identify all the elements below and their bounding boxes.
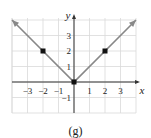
y-tick-label: 3 bbox=[67, 31, 72, 41]
x-tick-label: 1 bbox=[87, 86, 92, 96]
y-tick-label: −1 bbox=[61, 93, 71, 103]
y-tick-label: 2 bbox=[67, 46, 72, 56]
y-axis-arrow-icon bbox=[72, 14, 76, 19]
x-tick-label: −2 bbox=[38, 86, 48, 96]
y-tick-label: 1 bbox=[67, 62, 72, 72]
x-tick-label: −3 bbox=[23, 86, 33, 96]
x-tick-label: 3 bbox=[118, 86, 123, 96]
data-point bbox=[72, 80, 77, 85]
y-axis-label: y bbox=[65, 9, 71, 21]
x-tick-label: 2 bbox=[103, 86, 108, 96]
x-axis-label: x bbox=[139, 84, 145, 96]
graph-plot: −3−2−1123−1123xy bbox=[0, 0, 151, 120]
tick-labels: −3−2−1123−1123xy bbox=[23, 9, 145, 103]
data-point bbox=[41, 49, 46, 54]
figure-caption: (g) bbox=[0, 124, 151, 138]
data-point bbox=[103, 49, 108, 54]
